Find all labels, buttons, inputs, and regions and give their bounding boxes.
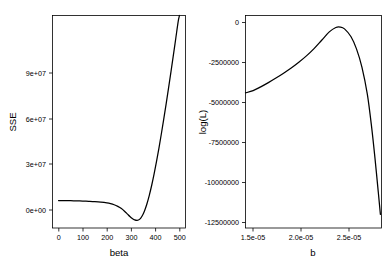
- loglik-plot-svg: 0 -2500000 -5000000 -7500000 -10000000 -…: [196, 0, 391, 274]
- x-tick-label: 0: [57, 233, 61, 242]
- y-tick-label: -2500000: [209, 58, 239, 67]
- x-tick-label: 1.5e-05: [241, 233, 265, 242]
- x-axis-title: beta: [110, 247, 129, 258]
- plot-frame: [246, 16, 382, 229]
- y-axis-tick-labels: 0 -2500000 -5000000 -7500000 -10000000 -…: [205, 18, 239, 227]
- sse-plot-svg: 9e+07 6e+07 3e+07 0e+00 SSE 0 100 200: [0, 0, 196, 274]
- y-axis-title: SSE: [7, 112, 18, 131]
- x-axis-tick-labels: 1.5e-05 2.0e-05 2.5e-05: [241, 233, 361, 242]
- x-axis-title: b: [310, 247, 315, 258]
- plot-panel-sse: 9e+07 6e+07 3e+07 0e+00 SSE 0 100 200: [0, 0, 196, 274]
- x-axis-ticks: [253, 228, 349, 232]
- y-tick-label: 3e+07: [26, 160, 46, 169]
- y-tick-label: -5000000: [209, 98, 239, 107]
- x-tick-label: 100: [77, 233, 89, 242]
- y-tick-label: 0e+00: [26, 206, 46, 215]
- loglik-curve: [246, 27, 381, 214]
- x-tick-label: 300: [125, 233, 137, 242]
- y-axis-title: log(L): [197, 110, 208, 135]
- plot-panel-loglik: 0 -2500000 -5000000 -7500000 -10000000 -…: [196, 0, 391, 274]
- x-tick-label: 2.0e-05: [289, 233, 313, 242]
- x-axis-tick-labels: 0 100 200 300 400 500: [57, 233, 186, 242]
- y-tick-label: -12500000: [205, 218, 239, 227]
- y-axis-ticks: [49, 73, 53, 210]
- y-tick-label: 9e+07: [26, 69, 46, 78]
- x-tick-label: 2.5e-05: [337, 233, 361, 242]
- y-tick-label: -10000000: [205, 178, 239, 187]
- y-tick-label: 6e+07: [26, 115, 46, 124]
- figure-container: 9e+07 6e+07 3e+07 0e+00 SSE 0 100 200: [0, 0, 391, 274]
- x-tick-label: 200: [101, 233, 113, 242]
- sse-curve: [59, 16, 180, 221]
- x-tick-label: 400: [150, 233, 162, 242]
- y-axis-tick-labels: 9e+07 6e+07 3e+07 0e+00: [26, 69, 46, 215]
- y-tick-label: 0: [235, 18, 239, 27]
- y-axis-ticks: [242, 23, 246, 223]
- y-tick-label: -7500000: [209, 138, 239, 147]
- x-axis-ticks: [59, 228, 180, 232]
- x-tick-label: 500: [174, 233, 186, 242]
- plot-frame: [53, 16, 186, 229]
